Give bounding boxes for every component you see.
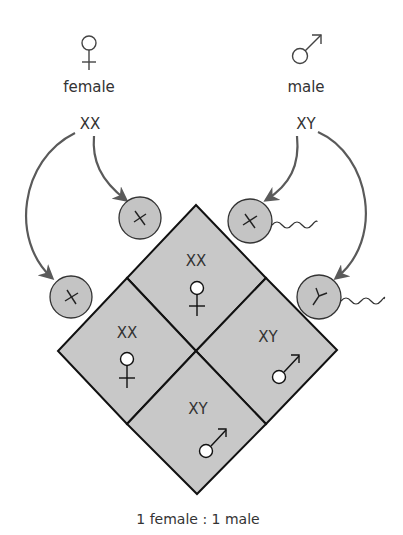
male-label: male xyxy=(287,78,324,96)
cell-bottom-genotype: XY xyxy=(188,400,208,418)
punnett-square xyxy=(58,205,337,494)
ratio-caption: 1 female : 1 male xyxy=(136,511,259,527)
gamete-sperm-x xyxy=(228,199,317,243)
gamete-egg-x-1 xyxy=(119,197,161,239)
cell-right-genotype: XY xyxy=(258,328,278,346)
cell-left-genotype: XX xyxy=(117,324,138,342)
gamete-sperm-y xyxy=(297,275,385,319)
female-genotype: XX xyxy=(80,115,101,133)
sperm-tail xyxy=(272,221,317,228)
arrow-female-to-gamete-1 xyxy=(26,133,75,278)
sex-determination-diagram: female XX male XY XX XX XY XY xyxy=(0,0,403,535)
female-label: female xyxy=(63,78,115,96)
male-genotype: XY xyxy=(296,115,316,133)
arrow-male-to-gamete-1 xyxy=(266,136,298,200)
female-symbol-icon xyxy=(82,36,96,70)
male-symbol-icon xyxy=(293,35,322,64)
sperm-tail xyxy=(341,297,385,304)
arrow-male-to-gamete-2 xyxy=(318,132,366,278)
cell-top-genotype: XX xyxy=(186,252,207,270)
gamete-egg-x-2 xyxy=(50,276,92,318)
arrow-female-to-gamete-2 xyxy=(94,136,126,200)
